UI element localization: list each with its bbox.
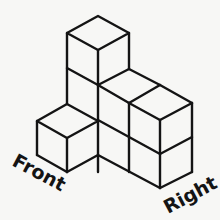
- right-label: Right: [160, 171, 220, 217]
- cube-structure-diagram: Front Right: [0, 0, 220, 220]
- cube-edges: [37, 16, 192, 188]
